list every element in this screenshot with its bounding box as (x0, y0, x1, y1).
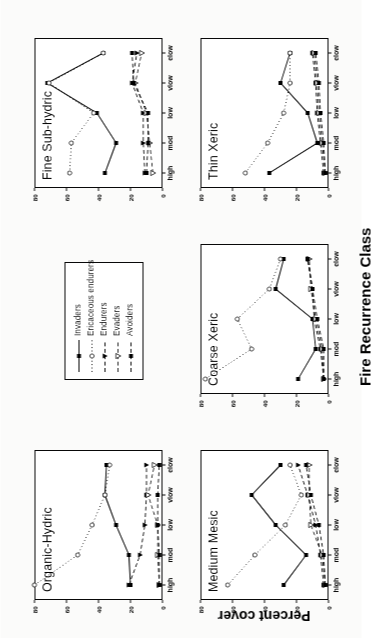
series-line-ericaceous-endurers (227, 465, 301, 585)
y-tick (296, 188, 297, 191)
y-tick (232, 394, 233, 397)
x-tick-label-elow: elow (332, 45, 339, 61)
data-point (281, 111, 285, 115)
y-tick-label: 80 (31, 194, 38, 201)
y-tick-label: 60 (229, 606, 236, 613)
data-point (310, 287, 314, 291)
y-tick-label: 0 (325, 400, 332, 403)
y-tick (328, 600, 329, 603)
x-tick-label-high: high (166, 578, 173, 593)
data-point (32, 583, 36, 587)
data-point (313, 51, 317, 55)
data-point (157, 463, 161, 467)
data-point (46, 81, 50, 85)
data-point (305, 257, 309, 261)
panel-thin-xeric: Thin Xeric020406080highmodlowvlowelow (200, 38, 328, 188)
data-point (305, 111, 309, 115)
x-tick-label-vlow: vlow (332, 75, 339, 91)
data-point (304, 553, 308, 557)
legend-label: Invaders (73, 304, 82, 339)
data-point (150, 170, 155, 175)
x-tick-label-elow: elow (166, 45, 173, 61)
data-point (288, 51, 292, 55)
data-point (316, 81, 320, 85)
series-line-ericaceous-endurers (205, 259, 280, 379)
data-point (321, 141, 325, 145)
data-point (249, 493, 253, 497)
data-point (273, 287, 277, 291)
x-tick-label-low: low (332, 519, 339, 531)
data-point (146, 141, 150, 145)
legend-label: Ericaceous endurers (86, 260, 95, 339)
data-point (126, 553, 130, 557)
data-point (67, 171, 71, 175)
data-point (90, 523, 94, 527)
data-point (316, 523, 320, 527)
data-point (283, 523, 287, 527)
y-tick (200, 188, 201, 191)
data-point (267, 287, 271, 291)
series-layer (200, 450, 328, 600)
x-tick-label-mod: mod (332, 548, 339, 563)
y-tick (328, 188, 329, 191)
legend-label: Endurers (99, 302, 108, 339)
legend: InvadersEricaceous endurersEndurersEvade… (64, 262, 143, 380)
data-point (139, 50, 144, 55)
legend-item-avoiders: Avoiders (123, 270, 136, 373)
data-point (130, 51, 134, 55)
y-tick-label: 20 (127, 606, 134, 613)
x-tick-label-high: high (332, 166, 339, 181)
data-point (318, 111, 322, 115)
panel-coarse-xeric: Coarse Xeric020406080highmodlowvlowelow (200, 244, 328, 394)
data-point (146, 111, 150, 115)
data-point (278, 81, 282, 85)
y-tick-label: 0 (159, 606, 166, 609)
data-point (265, 141, 269, 145)
y-tick-label: 0 (159, 194, 166, 197)
data-point (69, 141, 73, 145)
x-axis-title: Fire Recurrence Class (356, 228, 373, 386)
x-tick-label-elow: elow (332, 251, 339, 267)
legend-label: Avoiders (125, 304, 134, 339)
data-point (75, 553, 79, 557)
y-tick (264, 394, 265, 397)
y-tick-label: 60 (63, 606, 70, 613)
x-tick-label-low: low (166, 519, 173, 531)
y-tick (162, 188, 163, 191)
series-layer (200, 244, 328, 394)
y-tick (34, 188, 35, 191)
data-point (155, 523, 159, 527)
data-point (144, 171, 148, 175)
x-tick-label-elow: elow (166, 457, 173, 473)
data-point (304, 463, 308, 467)
y-tick-label: 20 (293, 194, 300, 201)
y-tick (130, 188, 131, 191)
legend-item-endurers: Endurers (97, 270, 110, 373)
data-point (288, 463, 292, 467)
legend-key-icon (84, 339, 97, 373)
legend-item-evaders: Evaders (110, 270, 123, 373)
y-tick-label: 40 (261, 606, 268, 613)
series-layer (34, 450, 162, 600)
data-point (243, 171, 247, 175)
data-point (315, 317, 319, 321)
series-line-invaders (251, 465, 305, 585)
data-point (295, 462, 300, 467)
x-tick-label-low: low (332, 107, 339, 119)
x-tick-label-vlow: vlow (332, 487, 339, 503)
data-point (267, 171, 271, 175)
series-line-invaders (275, 259, 315, 379)
data-point (114, 523, 118, 527)
x-tick-label-mod: mod (332, 136, 339, 151)
data-point (225, 583, 229, 587)
data-point (249, 347, 253, 351)
data-point (131, 81, 135, 85)
data-point (323, 171, 327, 175)
y-tick-label: 60 (63, 194, 70, 201)
data-point (235, 317, 239, 321)
y-tick (162, 600, 163, 603)
data-point (321, 347, 325, 351)
y-tick (66, 600, 67, 603)
data-point (281, 583, 285, 587)
